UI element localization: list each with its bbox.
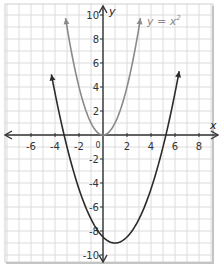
y-tick-label: -4 bbox=[89, 178, 99, 189]
x-tick-label: -6 bbox=[26, 141, 36, 152]
y-tick-label: -6 bbox=[89, 202, 99, 213]
x-axis-label: x bbox=[209, 119, 217, 132]
curve-label-y-equals-x-squared: y = x2 bbox=[146, 14, 181, 28]
x-tick-label: 6 bbox=[172, 141, 178, 152]
y-tick-label: 4 bbox=[93, 82, 99, 93]
x-tick-label: 2 bbox=[124, 141, 130, 152]
curve-transformed-parabola-arrow-icon bbox=[175, 71, 181, 77]
x-tick-label: 4 bbox=[148, 141, 154, 152]
x-tick-label: 8 bbox=[196, 141, 202, 152]
curve-label-base: y = x bbox=[146, 15, 177, 28]
curve-label-exponent: 2 bbox=[176, 14, 181, 22]
x-tick-label: -4 bbox=[50, 141, 60, 152]
graph-figure: -6-4-22468-10-8-6-4-2246810 x y 0 y = x2 bbox=[0, 0, 223, 268]
y-tick-label: -10 bbox=[83, 250, 99, 261]
x-tick-label: -2 bbox=[74, 141, 84, 152]
y-tick-label: 6 bbox=[93, 58, 99, 69]
y-tick-label: -2 bbox=[89, 154, 99, 165]
origin-label: 0 bbox=[95, 141, 100, 150]
y-tick-label: 8 bbox=[93, 34, 99, 45]
y-tick-label: 10 bbox=[86, 10, 99, 21]
y-axis-label: y bbox=[108, 5, 116, 18]
y-tick-label: 2 bbox=[93, 106, 99, 117]
axes bbox=[5, 6, 218, 262]
